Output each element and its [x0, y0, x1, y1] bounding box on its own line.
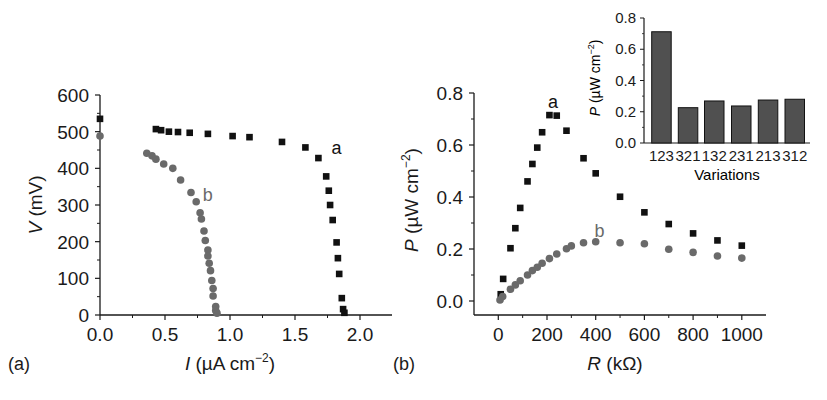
- panel-a-y-axis-title: V (mV): [25, 175, 46, 234]
- inset-y-tick-label: 0.2: [615, 103, 636, 120]
- inset-x-tick-label: 213: [756, 147, 781, 164]
- data-point: [96, 132, 104, 140]
- inset-bars: [652, 32, 805, 143]
- bar-123: [652, 32, 672, 143]
- y-tick-label: 300: [57, 195, 89, 216]
- data-point: [500, 276, 507, 283]
- data-point: [335, 255, 342, 262]
- data-point: [160, 160, 168, 168]
- data-point: [187, 189, 195, 197]
- data-point: [186, 129, 193, 136]
- data-point: [517, 205, 524, 212]
- y-tick-label: 0.8: [437, 83, 463, 104]
- inset-x-tick-label: 312: [782, 147, 807, 164]
- data-point: [198, 215, 206, 223]
- panel-b-x-axis-title: R (kΩ): [587, 353, 642, 374]
- x-tick-label: 2.0: [347, 324, 373, 345]
- inset-x-tick-label: 123: [649, 147, 674, 164]
- data-point: [689, 249, 697, 257]
- data-point: [192, 198, 200, 206]
- y-tick-label: 0.4: [437, 187, 464, 208]
- data-point: [539, 129, 546, 136]
- inset-y-tick-label: 0.0: [615, 134, 636, 151]
- y-tick-label: 0.2: [437, 239, 463, 260]
- data-point: [592, 170, 599, 177]
- data-point: [341, 310, 348, 317]
- data-point: [546, 255, 554, 263]
- data-point: [204, 252, 212, 260]
- y-tick-label: 0: [78, 305, 89, 326]
- data-point: [209, 285, 217, 293]
- data-point: [333, 239, 340, 246]
- data-point: [714, 237, 721, 244]
- data-point: [580, 155, 587, 162]
- data-point: [507, 245, 514, 252]
- inset-x-axis-title: Variations: [694, 166, 760, 183]
- y-tick-label: 0.0: [437, 291, 463, 312]
- data-point: [553, 112, 560, 119]
- data-point: [553, 250, 561, 258]
- y-tick-label: 600: [57, 85, 89, 106]
- data-point: [327, 202, 334, 209]
- data-point: [213, 309, 221, 317]
- data-point: [568, 242, 576, 250]
- bar-231: [732, 106, 752, 143]
- y-tick-label: 0.6: [437, 135, 463, 156]
- data-point: [714, 252, 722, 260]
- data-point: [196, 209, 204, 217]
- data-point: [302, 144, 309, 151]
- inset-bar-chart: 0.00.20.40.60.8123321132231213312 P (µW …: [586, 9, 810, 183]
- data-point: [538, 260, 546, 268]
- x-tick-label: 200: [531, 324, 563, 345]
- data-point: [158, 127, 165, 134]
- data-point: [665, 245, 673, 253]
- data-point: [339, 295, 346, 302]
- data-point: [641, 209, 648, 216]
- x-tick-label: 0: [493, 324, 504, 345]
- inset-y-tick-label: 0.6: [615, 40, 636, 57]
- data-point: [326, 187, 333, 194]
- panel-label-b: (b): [393, 354, 415, 374]
- inset-y-tick-label: 0.8: [615, 9, 636, 26]
- data-point: [616, 239, 624, 247]
- data-point: [205, 131, 212, 138]
- panel-a-iv-curve: 01002003004005006000.00.51.01.52.0 a b V…: [8, 85, 392, 374]
- panel-label-a: (a): [8, 354, 30, 374]
- data-point: [336, 271, 343, 278]
- bar-213: [758, 100, 778, 143]
- panel-a-data-points: [96, 116, 348, 317]
- figure: 01002003004005006000.00.51.01.52.0 a b V…: [0, 0, 827, 400]
- data-point: [323, 173, 330, 180]
- x-tick-label: 400: [580, 324, 612, 345]
- data-point: [534, 144, 541, 151]
- data-point: [177, 176, 185, 184]
- data-point: [97, 116, 104, 123]
- x-tick-label: 600: [629, 324, 661, 345]
- data-point: [516, 277, 524, 285]
- data-point: [524, 178, 531, 185]
- inset-y-axis-title: P (µW cm−2): [586, 40, 603, 117]
- data-point: [229, 133, 236, 140]
- data-point: [690, 230, 697, 237]
- data-point: [202, 237, 210, 245]
- data-point: [166, 128, 173, 135]
- data-point: [580, 239, 588, 247]
- series-a-label: a: [548, 92, 559, 112]
- bar-312: [785, 99, 805, 143]
- x-tick-label: 1.0: [217, 324, 243, 345]
- data-point: [563, 127, 570, 134]
- bar-321: [678, 108, 698, 143]
- data-point: [641, 240, 649, 248]
- data-point: [200, 227, 208, 235]
- y-tick-label: 500: [57, 122, 89, 143]
- data-point: [617, 193, 624, 200]
- data-point: [739, 242, 746, 249]
- y-tick-label: 200: [57, 232, 89, 253]
- data-point: [546, 112, 553, 119]
- data-point: [246, 134, 253, 141]
- bar-132: [705, 101, 725, 143]
- panel-b-y-axis-title: P (µW cm−2): [399, 148, 422, 252]
- x-tick-label: 1.5: [282, 324, 308, 345]
- inset-y-tick-label: 0.4: [615, 72, 636, 89]
- panel-a-x-axis-title: I (µA cm−2): [185, 351, 275, 374]
